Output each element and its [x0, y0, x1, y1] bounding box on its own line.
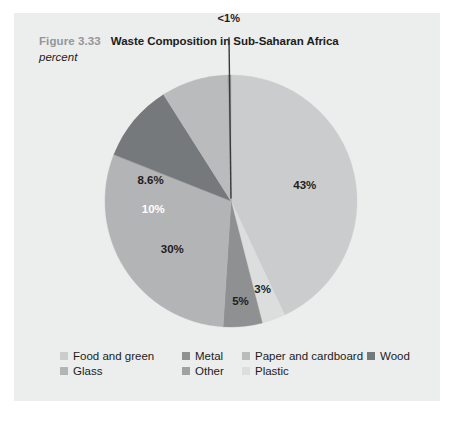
pie-chart: 43%3%5%30%10%8.6%<1% [101, 75, 361, 327]
legend-swatch [182, 367, 190, 375]
legend-label: Food and green [73, 350, 154, 362]
legend-label: Plastic [255, 365, 289, 377]
legend-item[interactable]: Paper and cardboard [242, 348, 363, 363]
pie-slice-label: 3% [254, 283, 271, 295]
legend-label: Other [195, 365, 224, 377]
legend-item[interactable]: Wood [367, 348, 410, 363]
figure-panel: Figure 3.33Waste Composition in Sub-Saha… [14, 13, 440, 401]
legend-label: Wood [380, 350, 410, 362]
legend-row: GlassOtherPlastic [60, 363, 420, 378]
legend-label: Metal [195, 350, 223, 362]
chart-area: 43%3%5%30%10%8.6%<1% [14, 13, 440, 401]
legend-swatch [60, 352, 68, 360]
legend-item[interactable]: Plastic [242, 363, 289, 378]
pie-slice-label: 8.6% [137, 174, 163, 186]
chart-legend: Food and greenMetalPaper and cardboardWo… [60, 348, 420, 378]
pie-slice-label: 30% [161, 243, 184, 255]
legend-swatch [367, 352, 375, 360]
legend-item[interactable]: Food and green [60, 348, 154, 363]
legend-row: Food and greenMetalPaper and cardboardWo… [60, 348, 420, 363]
pie-slice-label: 5% [232, 295, 249, 307]
pie-slice-group [105, 75, 357, 327]
legend-swatch [242, 367, 250, 375]
pie-slice-label: 10% [142, 203, 165, 215]
legend-item[interactable]: Glass [60, 363, 102, 378]
legend-label: Glass [73, 365, 102, 377]
legend-item[interactable]: Other [182, 363, 224, 378]
legend-swatch [182, 352, 190, 360]
legend-item[interactable]: Metal [182, 348, 223, 363]
legend-label: Paper and cardboard [255, 350, 363, 362]
pie-slice-label: 43% [293, 179, 316, 191]
pie-slice-label: <1% [218, 13, 241, 24]
legend-swatch [60, 367, 68, 375]
legend-swatch [242, 352, 250, 360]
